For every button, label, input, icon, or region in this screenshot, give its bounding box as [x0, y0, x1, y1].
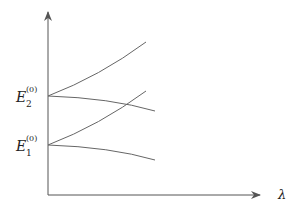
x-axis-label: λ	[277, 187, 286, 202]
curve-e2-falling	[48, 96, 155, 111]
svg-text:1: 1	[26, 148, 32, 158]
svg-text:2: 2	[26, 99, 32, 109]
curve-e2-rising	[48, 42, 146, 96]
curve-e1-rising	[48, 91, 146, 145]
svg-text:E: E	[15, 138, 26, 154]
svg-text:E: E	[15, 89, 26, 105]
svg-text:(0): (0)	[26, 85, 37, 94]
svg-text:(0): (0)	[26, 134, 37, 143]
level-label-e1: E 1 (0)	[15, 134, 37, 158]
level-label-e2: E 2 (0)	[15, 85, 37, 109]
perturbation-diagram: E 2 (0) E 1 (0) λ	[0, 0, 302, 207]
curve-e1-falling	[48, 145, 155, 160]
